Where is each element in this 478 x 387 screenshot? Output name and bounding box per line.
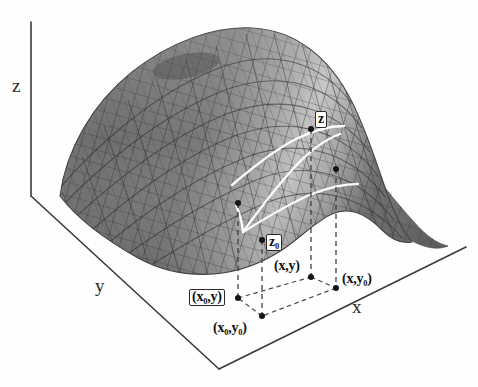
x0y-point-label: (x₀,y) [189,289,225,306]
z0-point-label: z₀ [266,234,282,251]
dot-base-xy0 [333,285,339,291]
dot-z0-surface [259,237,265,243]
dot-base-x0y0 [259,313,265,319]
z-axis-label: z [12,76,20,95]
dot-z-surface [308,126,314,132]
dot-surface-xy0 [333,166,339,172]
y-axis-label: y [95,276,105,295]
x-axis-label: x [352,297,362,316]
dot-surface-x0y [235,200,241,206]
xy-point-label: (x,y) [272,259,302,274]
surface-plot-figure: z y x z z₀ (x,y) (x₀,y) (x,y₀) (x₀,y₀) [0,0,478,387]
xy0-point-label: (x,y₀) [340,272,374,287]
x0y0-point-label: (x₀,y₀) [211,321,249,336]
dot-base-x0y [235,295,241,301]
dot-base-xy [308,274,314,280]
z-point-label: z [315,111,327,128]
